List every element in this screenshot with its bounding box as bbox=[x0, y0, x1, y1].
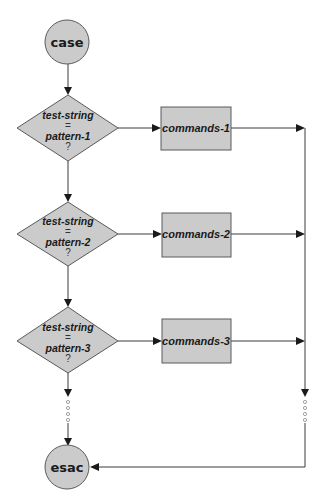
condition-question: ? bbox=[65, 141, 71, 152]
arrowhead-right-icon bbox=[153, 337, 162, 345]
arrowhead-down-icon bbox=[64, 87, 72, 95]
decision-node-3: test-string = pattern-3 ? bbox=[17, 307, 118, 373]
arrowhead-right-icon bbox=[296, 337, 305, 345]
decision-node-2: test-string = pattern-2 ? bbox=[17, 202, 118, 266]
action-node-2: commands-2 bbox=[162, 213, 231, 257]
action-node-1: commands-1 bbox=[161, 107, 231, 150]
arrowhead-down-icon bbox=[64, 194, 72, 202]
action-label: commands-2 bbox=[162, 228, 230, 240]
arrowhead-down-icon bbox=[64, 299, 72, 307]
end-node-esac: esac bbox=[45, 445, 89, 489]
condition-question: ? bbox=[65, 353, 71, 364]
arrowhead-left-icon bbox=[90, 463, 99, 471]
decision-node-1: test-string = pattern-1 ? bbox=[17, 95, 118, 161]
continuation-dots-right bbox=[303, 400, 306, 421]
condition-question: ? bbox=[65, 247, 71, 258]
arrowhead-right-icon bbox=[296, 124, 305, 132]
start-node-case: case bbox=[45, 20, 89, 64]
arrowhead-right-icon bbox=[152, 124, 161, 132]
action-label: commands-3 bbox=[162, 335, 230, 347]
case-esac-flowchart: case test-string = pattern-1 ? commands-… bbox=[0, 0, 325, 504]
arrowhead-down-icon bbox=[64, 389, 72, 397]
action-label: commands-1 bbox=[162, 122, 230, 134]
action-node-3: commands-3 bbox=[162, 319, 231, 363]
arrowhead-right-icon bbox=[296, 230, 305, 238]
start-label: case bbox=[50, 35, 83, 50]
continuation-dots-left bbox=[66, 400, 69, 421]
arrowhead-right-icon bbox=[153, 230, 162, 238]
end-label: esac bbox=[50, 460, 83, 475]
arrowhead-down-icon bbox=[301, 389, 309, 397]
